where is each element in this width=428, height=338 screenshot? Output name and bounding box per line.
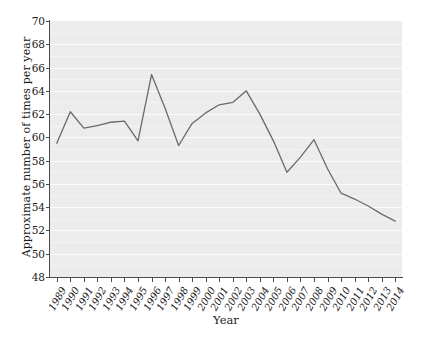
- line-chart-figure: Approximate number of times per year 706…: [0, 0, 428, 338]
- x-axis-tick-labels: 1989199019911992199319941995199619971998…: [0, 0, 428, 338]
- x-axis-title: Year: [50, 313, 402, 327]
